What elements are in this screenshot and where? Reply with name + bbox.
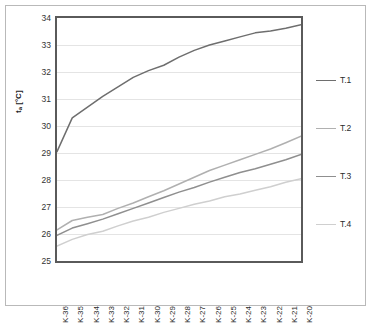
y-axis-tick-label: 31: [42, 94, 51, 104]
x-axis-tick-label: K-21: [290, 306, 299, 323]
x-axis-tick-label: K-32: [122, 306, 131, 323]
legend-item-t-3[interactable]: T.3: [316, 170, 351, 182]
x-axis-tick-label: K-29: [168, 306, 177, 323]
legend-line-swatch: [316, 80, 336, 81]
x-axis-tick-label: K-26: [214, 306, 223, 323]
legend-item-t-1[interactable]: T.1: [316, 74, 351, 86]
legend-label: T.1: [340, 75, 351, 85]
legend-line-swatch: [316, 176, 336, 177]
series-line-t-4: [57, 179, 301, 247]
x-axis-ticks: K-36K-35K-34K-33K-32K-31K-30K-29K-28K-27…: [55, 266, 303, 308]
series-line-t-1: [57, 25, 301, 152]
x-axis-tick-label: K-23: [259, 306, 268, 323]
x-axis-tick-label: K-30: [153, 306, 162, 323]
y-axis-ticks: 25262728293031323334: [20, 16, 51, 263]
legend-item-t-4[interactable]: T.4: [316, 218, 351, 230]
x-axis-tick-label: K-20: [305, 306, 314, 323]
series-lines: [57, 18, 301, 261]
y-axis-tick-label: 25: [42, 256, 51, 266]
legend-label: T.4: [340, 219, 351, 229]
series-line-t-3: [57, 154, 301, 235]
y-axis-tick-label: 28: [42, 175, 51, 185]
y-axis-tick-label: 33: [42, 40, 51, 50]
y-axis-tick-label: 32: [42, 67, 51, 77]
x-axis-tick-label: K-36: [61, 306, 70, 323]
x-axis-tick-label: K-27: [198, 306, 207, 323]
y-axis-tick-label: 29: [42, 148, 51, 158]
x-axis-tick-label: K-34: [92, 306, 101, 323]
x-axis-tick-label: K-28: [183, 306, 192, 323]
y-axis-tick-label: 34: [42, 13, 51, 23]
x-axis-tick-label: K-33: [107, 306, 116, 323]
series-line-t-2: [57, 136, 301, 230]
x-axis-tick-label: K-22: [275, 306, 284, 323]
legend-label: T.2: [340, 123, 351, 133]
legend-item-t-2[interactable]: T.2: [316, 122, 351, 134]
x-axis-tick-label: K-35: [76, 306, 85, 323]
x-axis-tick-label: K-25: [229, 306, 238, 323]
x-axis-tick-label: K-24: [244, 306, 253, 323]
y-axis-tick-label: 30: [42, 121, 51, 131]
y-axis-tick-label: 27: [42, 202, 51, 212]
legend-line-swatch: [316, 128, 336, 129]
x-axis-tick-label: K-31: [137, 306, 146, 323]
plot-area: [55, 16, 303, 263]
chart-legend: T.1T.2T.3T.4: [316, 72, 366, 232]
legend-line-swatch: [316, 224, 336, 225]
y-axis-tick-label: 26: [42, 229, 51, 239]
legend-label: T.3: [340, 171, 351, 181]
